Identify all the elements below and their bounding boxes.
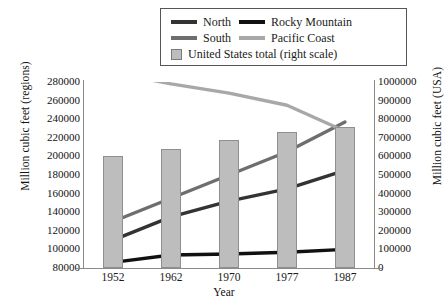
bar-us-total xyxy=(277,132,297,268)
x-axis-tick-label: 1970 xyxy=(199,271,259,283)
plot-area xyxy=(84,82,374,268)
line-pacific-coast xyxy=(113,82,345,131)
bar-us-total xyxy=(335,127,355,268)
legend-label-north: North xyxy=(203,16,231,29)
x-axis-line xyxy=(76,268,382,269)
x-axis-tick-label: 1952 xyxy=(83,271,143,283)
legend-item-south: South xyxy=(171,32,231,45)
legend-row-3: United States total (right scale) xyxy=(171,46,398,62)
legend-item-north: North xyxy=(171,16,231,29)
line-swatch-rocky-mountain-icon xyxy=(239,20,265,24)
legend-label-pacific-coast: Pacific Coast xyxy=(271,32,335,45)
bar-us-total xyxy=(103,156,123,268)
legend-label-south: South xyxy=(203,32,231,45)
x-axis-tick-label: 1962 xyxy=(141,271,201,283)
legend-label-rocky-mountain: Rocky Mountain xyxy=(271,16,352,29)
x-axis-tick-label: 1977 xyxy=(257,271,317,283)
line-swatch-pacific-coast-icon xyxy=(239,36,265,40)
legend-item-rocky-mountain: Rocky Mountain xyxy=(239,16,352,29)
y-axis-right-line xyxy=(374,80,375,269)
legend-label-us-total: United States total (right scale) xyxy=(188,48,337,61)
line-swatch-south-icon xyxy=(171,36,197,40)
box-swatch-us-total-icon xyxy=(171,49,182,60)
legend-row-2: South Pacific Coast xyxy=(171,30,398,46)
chart-legend: North Rocky Mountain South Pacific Coast… xyxy=(160,8,407,66)
bar-us-total xyxy=(161,149,181,268)
x-axis-tick-label: 1987 xyxy=(315,271,375,283)
line-swatch-north-icon xyxy=(171,20,197,24)
legend-item-us-total: United States total (right scale) xyxy=(171,48,337,61)
chart-container: Million cubic feet (regions) Million cub… xyxy=(0,0,448,307)
legend-item-pacific-coast: Pacific Coast xyxy=(239,32,335,45)
legend-row-1: North Rocky Mountain xyxy=(171,14,398,30)
bar-us-total xyxy=(219,140,239,268)
